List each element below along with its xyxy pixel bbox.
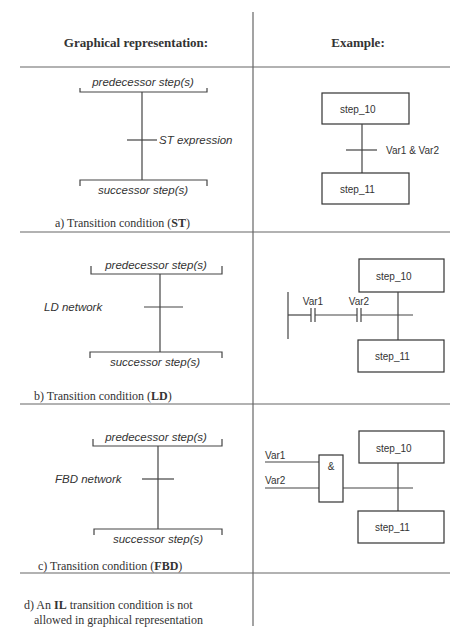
contact-var2-label: Var2 [349, 296, 370, 307]
section-a-example: step_10 Var1 & Var2 step_11 [322, 93, 439, 204]
and-block-label: & [328, 461, 335, 472]
predecessor-label: predecessor step(s) [91, 76, 194, 88]
caption-c: c) Transition condition (FBD) [38, 559, 182, 573]
predecessor-label: predecessor step(s) [104, 431, 207, 443]
example-condition: Var1 & Var2 [386, 145, 439, 156]
predecessor-bracket [80, 88, 207, 92]
caption-b: b) Transition condition (LD) [34, 389, 172, 403]
input-var1-label: Var1 [265, 450, 286, 461]
step-10-label: step_10 [340, 104, 376, 115]
input-var2-label: Var2 [265, 475, 286, 486]
step-11-label: step_11 [340, 184, 375, 195]
il-note-line1: d) An IL transition condition is not [24, 598, 193, 612]
ld-network-label: LD network [44, 301, 103, 313]
section-c-graphical: predecessor step(s) FBD network successo… [38, 431, 222, 573]
section-c-example: step_10 Var1 Var2 & step_11 [265, 431, 444, 543]
section-a-graphical: predecessor step(s) ST expression succes… [55, 76, 233, 230]
transition-conditions-figure: Graphical representation: Example: prede… [0, 0, 466, 644]
st-expression-label: ST expression [159, 134, 233, 146]
successor-label: successor step(s) [113, 533, 203, 545]
section-d-note: d) An IL transition condition is not all… [24, 598, 203, 627]
il-note-line2: allowed in graphical representation [34, 613, 203, 627]
caption-a: a) Transition condition (ST) [55, 216, 190, 230]
predecessor-label: predecessor step(s) [104, 259, 207, 271]
contact-var1-label: Var1 [303, 296, 324, 307]
successor-label: successor step(s) [98, 184, 188, 196]
step-11-label: step_11 [375, 351, 410, 362]
header-example: Example: [331, 35, 384, 50]
header-graphical-representation: Graphical representation: [64, 35, 208, 50]
step-10-label: step_10 [376, 271, 412, 282]
step-11-label: step_11 [375, 522, 410, 533]
section-b-example: step_10 Var1 Var2 step_11 [288, 259, 444, 372]
step-10-label: step_10 [376, 443, 412, 454]
successor-label: successor step(s) [110, 356, 200, 368]
fbd-network-label: FBD network [55, 473, 123, 485]
section-b-graphical: predecessor step(s) LD network successor… [34, 259, 222, 403]
